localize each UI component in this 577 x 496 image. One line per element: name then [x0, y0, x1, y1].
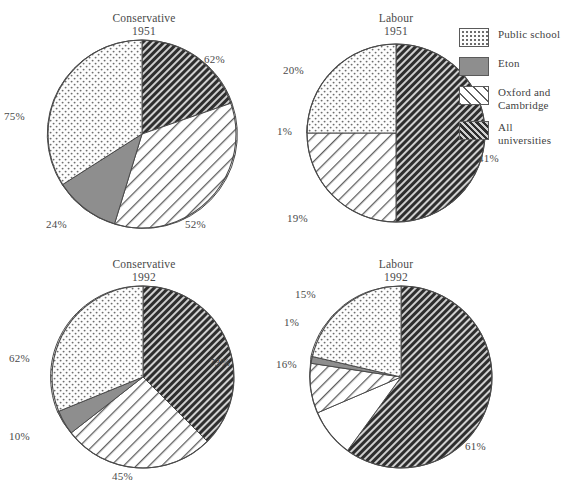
chart-title-conservative-1992: Conservative 1992 — [64, 258, 224, 283]
legend-label-universities-line2: universities — [498, 134, 551, 146]
legend-label-oxbridge-line2: Cambridge — [498, 99, 549, 111]
chart-title-year: 1992 — [316, 271, 476, 284]
legend-item-public-school: Public school — [459, 27, 577, 47]
legend-label-universities-line1: All — [498, 121, 513, 133]
chart-conservative-1992: Conservative 1992 — [32, 258, 257, 490]
pie-label-public-school: 20% — [283, 64, 304, 76]
pie-slice-public-school — [307, 44, 396, 133]
swatch-oxbridge-icon — [459, 86, 489, 105]
pie-label-public-school: 75% — [4, 110, 25, 122]
pie-label-universities: 62% — [204, 53, 225, 65]
pie-label-oxbridge: 52% — [185, 218, 206, 230]
chart-title-year: 1951 — [64, 25, 224, 38]
pie-label-eton: 1% — [277, 125, 292, 137]
pie-conservative-1992 — [50, 284, 236, 470]
pie-label-oxbridge: 45% — [112, 470, 133, 482]
chart-title-labour-1951: Labour 1951 — [316, 12, 476, 37]
legend-label-oxbridge-line1: Oxford and — [498, 86, 550, 98]
pie-label-universities: 61% — [465, 440, 486, 452]
chart-title-party: Conservative — [64, 258, 224, 271]
chart-title-labour-1992: Labour 1992 — [316, 258, 476, 283]
chart-title-year: 1951 — [316, 25, 476, 38]
swatch-universities-icon — [459, 121, 489, 140]
figure-pie-chart-panel: Conservative 1951 — [0, 0, 577, 496]
chart-conservative-1951: Conservative 1951 — [32, 12, 257, 244]
swatch-public-school-icon — [459, 28, 489, 47]
chart-labour-1992: Labour 1992 — [300, 258, 500, 490]
pie-label-eton: 10% — [9, 430, 30, 442]
chart-title-conservative-1951: Conservative 1951 — [64, 12, 224, 37]
legend-label-universities: All universities — [498, 120, 551, 146]
legend-label-eton: Eton — [498, 56, 520, 70]
chart-title-party: Conservative — [64, 12, 224, 25]
pie-label-public-school: 15% — [295, 288, 316, 300]
legend-item-oxbridge: Oxford and Cambridge — [459, 85, 577, 111]
legend-label-public-school: Public school — [498, 27, 560, 41]
legend: Public school Eton Oxford and Cambridge … — [459, 27, 577, 155]
chart-title-party: Labour — [316, 258, 476, 271]
pie-label-public-school: 62% — [9, 352, 30, 364]
legend-item-eton: Eton — [459, 56, 577, 76]
chart-title-year: 1992 — [64, 271, 224, 284]
swatch-eton-icon — [459, 57, 489, 76]
pie-label-eton: 24% — [46, 218, 67, 230]
pie-label-universities: 73% — [209, 356, 230, 368]
pie-label-oxbridge: 16% — [276, 358, 297, 370]
pie-slice-oxbridge — [307, 125, 396, 222]
pie-label-eton: 1% — [284, 316, 299, 328]
legend-item-universities: All universities — [459, 120, 577, 146]
pie-label-oxbridge: 19% — [287, 212, 308, 224]
chart-title-party: Labour — [316, 12, 476, 25]
legend-label-oxbridge: Oxford and Cambridge — [498, 85, 550, 111]
pie-conservative-1951 — [46, 38, 238, 230]
